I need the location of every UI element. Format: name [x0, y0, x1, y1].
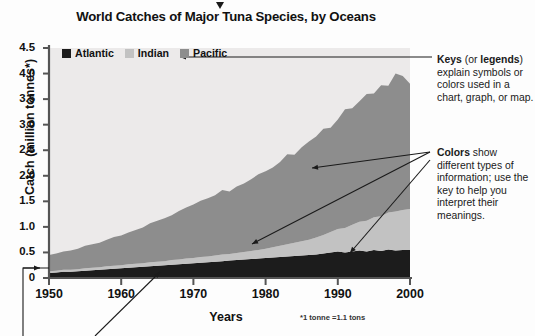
chart-page: World Catches of Major Tuna Species, by …	[0, 0, 535, 336]
y-tick-label: 0	[9, 271, 35, 283]
x-tick-label: 1950	[26, 287, 72, 301]
annotation-keys-bold-legends: legends	[480, 54, 519, 65]
y-tick-label: 4.5	[9, 41, 35, 53]
chart-legend: AtlanticIndianPacific	[62, 47, 227, 59]
y-tick-label: 0.5	[9, 245, 35, 257]
annotation-keys-mid: (or	[462, 54, 480, 65]
legend-swatch-icon	[180, 49, 189, 58]
legend-label: Pacific	[193, 47, 227, 59]
x-tick-label: 2000	[387, 287, 433, 301]
y-tick-label: 2.5	[9, 143, 35, 155]
legend-label: Indian	[138, 47, 169, 59]
y-tick-label: 2.0	[9, 169, 35, 181]
y-tick-label: 1.0	[9, 220, 35, 232]
bottom-left-callout-arrow-line	[95, 272, 160, 336]
y-tick-label: 3.5	[9, 92, 35, 104]
y-tick-label: 1.5	[9, 194, 35, 206]
legend-swatch-icon	[125, 49, 134, 58]
legend-item-pacific[interactable]: Pacific	[180, 47, 227, 59]
legend-swatch-icon	[62, 49, 71, 58]
x-tick-label: 1980	[243, 287, 289, 301]
axis-start-arrow-head	[34, 266, 40, 271]
annotation-keys-bold-keys: Keys	[437, 54, 462, 65]
legend-item-atlantic[interactable]: Atlantic	[62, 47, 114, 59]
legend-label: Atlantic	[75, 47, 114, 59]
x-tick-label: 1960	[98, 287, 144, 301]
annotation-colors-bold: Colors	[437, 147, 470, 158]
x-tick-label: 1970	[170, 287, 216, 301]
legend-item-indian[interactable]: Indian	[125, 47, 169, 59]
y-tick-label: 4.0	[9, 67, 35, 79]
y-tick-label: 3.0	[9, 118, 35, 130]
x-tick-label: 1990	[315, 287, 361, 301]
annotation-colors: Colors show different types of informati…	[437, 147, 533, 223]
annotation-keys: Keys (or legends) explain symbols or col…	[437, 54, 535, 104]
annotation-colors-rest: show different types of information; use…	[437, 147, 528, 221]
